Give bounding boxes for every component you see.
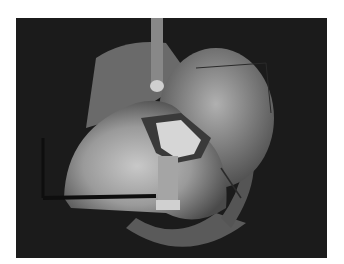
surgical-photo <box>16 18 327 258</box>
retractor-blade <box>151 18 163 83</box>
photo-illustration <box>16 18 327 258</box>
